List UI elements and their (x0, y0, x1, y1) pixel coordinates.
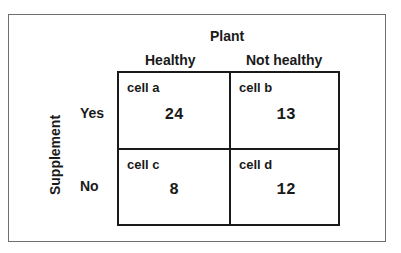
row-header-yes: Yes (80, 105, 104, 121)
cell-c-value: 8 (119, 181, 229, 199)
column-header-not-healthy: Not healthy (246, 52, 322, 68)
divider-horizontal (119, 148, 338, 150)
cell-a-value: 24 (119, 106, 229, 124)
contingency-table: cell a 24 cell b 13 cell c 8 cell d 12 (117, 71, 340, 226)
cell-a-label: cell a (127, 80, 160, 95)
cell-c-label: cell c (127, 157, 160, 172)
column-axis-label: Plant (210, 28, 244, 44)
row-axis-label: Supplement (47, 115, 63, 195)
cell-b-value: 13 (231, 106, 341, 124)
cell-b-label: cell b (239, 80, 272, 95)
column-header-healthy: Healthy (145, 52, 196, 68)
cell-d-value: 12 (231, 181, 341, 199)
cell-d-label: cell d (239, 157, 272, 172)
row-header-no: No (80, 178, 99, 194)
